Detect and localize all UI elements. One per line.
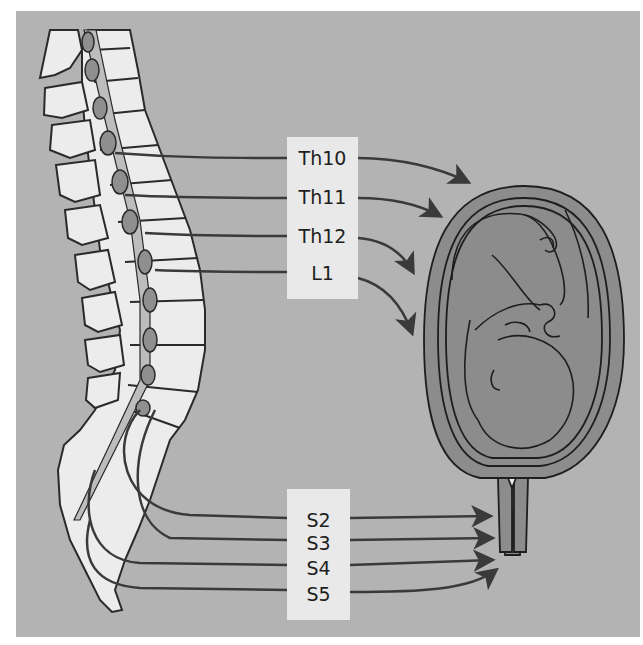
label-th10: Th10 (287, 147, 358, 169)
lower-label-box: S2 S3 S4 S5 (287, 489, 350, 620)
upper-label-box: Th10 Th11 Th12 L1 (287, 137, 358, 299)
label-s5: S5 (287, 583, 350, 605)
label-th12: Th12 (287, 225, 358, 247)
label-s4: S4 (287, 557, 350, 579)
label-l1: L1 (287, 262, 358, 284)
label-s3: S3 (287, 532, 350, 554)
label-th11: Th11 (287, 186, 358, 208)
spine-illustration (40, 30, 205, 612)
pregnant-uterus-illustration (424, 186, 624, 555)
label-s2: S2 (287, 509, 350, 531)
